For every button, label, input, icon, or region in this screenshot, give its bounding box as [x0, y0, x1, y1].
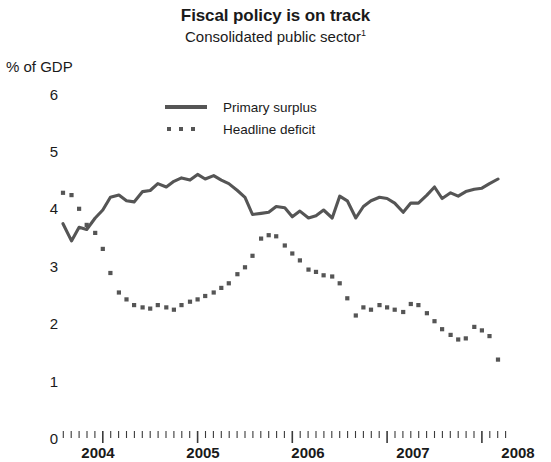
chart-plot-area: [0, 0, 551, 462]
fiscal-policy-chart: Fiscal policy is on track Consolidated p…: [0, 0, 551, 462]
x-axis-ticks: [63, 431, 505, 443]
series-dots-headline-deficit: [61, 191, 500, 362]
series-line-primary-surplus: [63, 174, 498, 241]
